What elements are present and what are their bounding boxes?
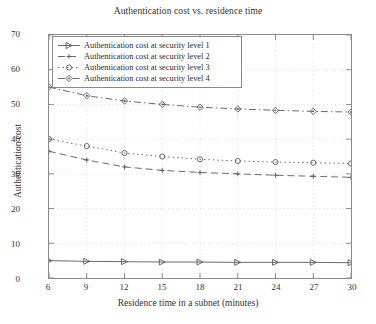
legend-label: Authentication cost at security level 3 xyxy=(82,63,210,72)
y-axis-title: Authentication cost xyxy=(13,91,23,231)
legend-marker-circle-icon xyxy=(56,62,82,73)
legend-marker-plus-icon xyxy=(56,51,82,62)
x-axis-title: Residence time in a subnet (minutes) xyxy=(0,298,376,308)
x-tick-label: 15 xyxy=(158,282,167,292)
y-tick-label: 60 xyxy=(0,64,20,74)
legend-label: Authentication cost at security level 2 xyxy=(82,52,210,61)
legend: Authentication cost at security level 1A… xyxy=(52,36,242,88)
chart-figure: Authentication cost vs. residence time 0… xyxy=(0,0,376,324)
y-tick-label: 10 xyxy=(0,239,20,249)
legend-item: Authentication cost at security level 4 xyxy=(56,73,237,84)
series-line xyxy=(49,139,351,163)
y-tick-label: 0 xyxy=(0,274,20,284)
legend-marker-right-triangle-icon xyxy=(56,40,82,51)
legend-item: Authentication cost at security level 2 xyxy=(56,51,237,62)
x-tick-label: 6 xyxy=(46,282,51,292)
legend-marker-diamond-icon xyxy=(56,73,82,84)
x-tick-label: 21 xyxy=(234,282,243,292)
x-tick-label: 24 xyxy=(272,282,281,292)
x-tick-label: 9 xyxy=(84,282,89,292)
x-tick-label: 12 xyxy=(120,282,129,292)
legend-item: Authentication cost at security level 3 xyxy=(56,62,237,73)
x-tick-label: 18 xyxy=(196,282,205,292)
legend-label: Authentication cost at security level 4 xyxy=(82,74,210,83)
x-tick-label: 27 xyxy=(310,282,319,292)
legend-label: Authentication cost at security level 1 xyxy=(82,41,210,50)
legend-item: Authentication cost at security level 1 xyxy=(56,40,237,51)
chart-title: Authentication cost vs. residence time xyxy=(0,6,376,16)
y-tick-label: 70 xyxy=(0,29,20,39)
x-tick-label: 30 xyxy=(348,282,357,292)
series-line xyxy=(49,87,351,112)
